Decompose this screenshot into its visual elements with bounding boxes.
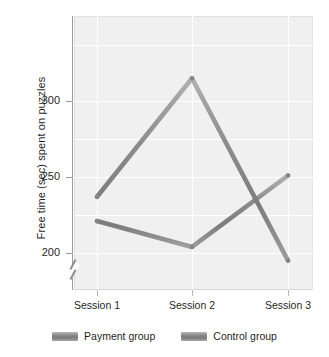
legend-item-payment-group[interactable]: Payment group <box>52 330 155 342</box>
x-tick-session-2 <box>192 290 193 296</box>
plot-border-left <box>74 16 75 290</box>
y-axis-title: Free time (sec) spent on puzzles <box>35 48 47 268</box>
y-tick-label-200: 200 <box>34 247 60 258</box>
legend-label-payment-group: Payment group <box>84 330 155 342</box>
y-tick-label-250: 250 <box>34 171 60 182</box>
legend-label-control-group: Control group <box>213 330 277 342</box>
y-tick-250 <box>66 177 73 178</box>
legend-swatch-icon <box>181 332 207 341</box>
y-axis-spine <box>72 16 73 290</box>
plot-border-bottom <box>74 289 313 290</box>
x-tick-session-3 <box>288 290 289 296</box>
y-tick-200 <box>66 253 73 254</box>
y-tick-label-300: 300 <box>34 95 60 106</box>
x-tick-label-session-3: Session 3 <box>251 299 325 311</box>
x-tick-label-session-1: Session 1 <box>60 299 134 311</box>
axis-break-icon <box>66 258 80 284</box>
chart-legend: Payment group Control group <box>0 328 329 344</box>
x-tick-label-session-2: Session 2 <box>155 299 229 311</box>
gridline-horizontal-250 <box>74 177 313 178</box>
gridline-horizontal <box>74 215 313 216</box>
gridline-horizontal <box>74 139 313 140</box>
plot-border-top <box>74 16 313 17</box>
gridline-vertical-session-1 <box>97 16 98 290</box>
gridline-vertical-session-3 <box>288 16 289 290</box>
gridline-horizontal-200 <box>74 253 313 254</box>
x-tick-session-1 <box>97 290 98 296</box>
plot-area <box>74 16 313 290</box>
legend-swatch-icon <box>52 332 78 341</box>
gridline-horizontal <box>74 45 313 46</box>
gridline-horizontal-300 <box>74 101 313 102</box>
gridline-vertical-session-2 <box>192 16 193 290</box>
plot-border-right <box>312 16 313 290</box>
y-tick-300 <box>66 101 73 102</box>
legend-item-control-group[interactable]: Control group <box>181 330 277 342</box>
line-chart: Free time (sec) spent on puzzles 300 250… <box>0 0 329 357</box>
